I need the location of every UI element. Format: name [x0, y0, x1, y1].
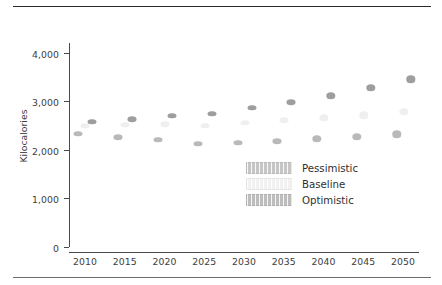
legend-item[interactable]: Baseline: [246, 176, 424, 192]
plot-area: Kilocalories 01,0002,0003,0004,000 20102…: [69, 30, 421, 242]
data-point: [287, 99, 296, 105]
x-tick-label: 2045: [351, 256, 375, 267]
legend-label: Optimistic: [302, 195, 354, 206]
data-point: [128, 116, 137, 122]
x-tick-label: 2010: [73, 256, 97, 267]
data-point: [312, 135, 321, 142]
legend-item[interactable]: Pessimistic: [246, 160, 424, 176]
y-tick-label: 4,000: [32, 48, 59, 59]
y-tick-label: 2,000: [32, 145, 59, 156]
data-point: [273, 138, 282, 144]
data-point: [319, 114, 328, 121]
data-point: [392, 131, 401, 138]
data-point: [114, 134, 123, 140]
data-point: [359, 111, 368, 118]
data-point: [247, 105, 256, 111]
x-tick-label: 2015: [113, 256, 137, 267]
x-tick-label: 2020: [152, 256, 176, 267]
bottom-divider-rule: [13, 277, 431, 278]
x-axis-line: [69, 252, 419, 253]
legend-swatch: [246, 194, 292, 206]
top-divider-rule: [13, 6, 431, 7]
data-point: [233, 140, 242, 146]
data-point: [153, 137, 162, 143]
data-point: [160, 121, 169, 127]
data-point: [352, 133, 361, 140]
y-tick: 2,000: [64, 150, 69, 151]
data-point: [399, 108, 408, 115]
chart-legend: PessimisticBaselineOptimistic: [246, 160, 424, 208]
data-point: [406, 76, 415, 83]
legend-label: Baseline: [302, 179, 345, 190]
data-point: [193, 141, 202, 147]
x-tick-label: 2040: [312, 256, 336, 267]
data-point: [240, 120, 249, 126]
y-tick: 0: [64, 247, 69, 248]
x-tick-label: 2030: [232, 256, 256, 267]
data-point: [167, 113, 176, 119]
data-point: [74, 131, 83, 137]
legend-item[interactable]: Optimistic: [246, 192, 424, 208]
x-tick-label: 2025: [192, 256, 216, 267]
data-point: [207, 111, 216, 117]
x-tick-label: 2050: [391, 256, 415, 267]
data-point: [88, 119, 97, 125]
y-tick-label: 0: [53, 243, 59, 254]
x-tick-label: 2035: [272, 256, 296, 267]
legend-swatch: [246, 162, 292, 174]
chart-figure: Kilocalories 01,0002,0003,0004,000 20102…: [0, 0, 442, 285]
y-axis-line: [69, 43, 70, 247]
y-tick: 3,000: [64, 101, 69, 102]
y-tick: 1,000: [64, 198, 69, 199]
data-point: [326, 92, 335, 99]
data-point: [366, 84, 375, 91]
legend-swatch: [246, 178, 292, 190]
data-point: [200, 123, 209, 129]
y-tick-label: 3,000: [32, 97, 59, 108]
legend-label: Pessimistic: [302, 163, 358, 174]
data-point: [280, 118, 289, 124]
data-point: [121, 122, 130, 128]
y-axis-title: Kilocalories: [18, 110, 29, 163]
y-tick: 4,000: [64, 53, 69, 54]
y-tick-label: 1,000: [32, 194, 59, 205]
